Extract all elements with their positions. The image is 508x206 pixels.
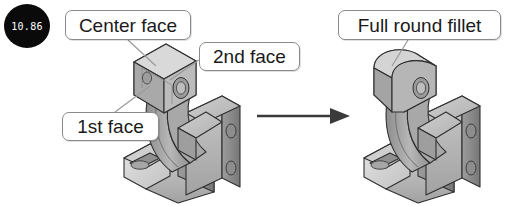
transformation-arrow	[257, 108, 350, 124]
figure-number-badge: 10.86	[4, 4, 50, 48]
callout-first-face-label: 1st face	[77, 117, 144, 136]
callout-center-face[interactable]: Center face	[65, 10, 191, 40]
callout-first-face[interactable]: 1st face	[62, 112, 159, 141]
callout-full-round-fillet[interactable]: Full round fillet	[338, 10, 501, 40]
leader-line-full-round	[392, 40, 408, 66]
callout-second-face-label: 2nd face	[213, 47, 286, 66]
leader-line-first-face	[115, 86, 150, 112]
leader-line-second-face	[170, 60, 199, 80]
callout-full-round-fillet-label: Full round fillet	[358, 16, 482, 35]
callout-center-face-label: Center face	[79, 16, 177, 35]
leader-line-center-face	[128, 40, 156, 66]
figure-canvas: 10.86 Center face 2nd face 1st face Full…	[0, 0, 508, 206]
figure-number-value: 10.86	[11, 21, 43, 32]
callout-second-face[interactable]: 2nd face	[199, 42, 300, 71]
